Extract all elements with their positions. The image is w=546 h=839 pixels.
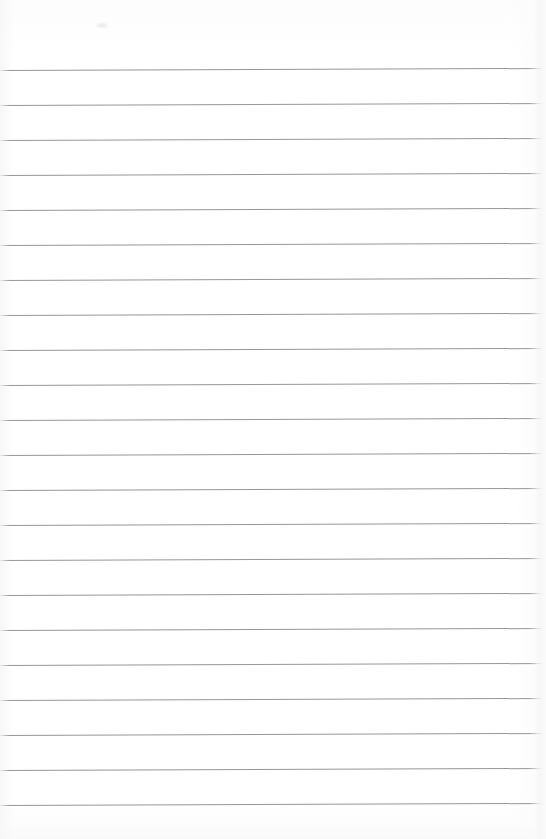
ruled-line <box>0 733 542 736</box>
paper-surface <box>0 0 546 839</box>
ruled-line <box>0 103 542 106</box>
page-edge-shadow-bottom <box>0 823 546 839</box>
ruled-line <box>0 138 542 141</box>
ruled-line <box>0 488 542 491</box>
ruled-line <box>0 663 542 666</box>
ruled-lines-layer <box>0 0 546 839</box>
ruled-line <box>0 558 542 561</box>
ruled-line <box>0 313 542 316</box>
ruled-line <box>0 418 542 421</box>
ruled-line <box>0 68 542 71</box>
ruled-line <box>0 208 542 211</box>
ruled-line <box>0 348 542 351</box>
ruled-line <box>0 173 542 176</box>
ruled-line <box>0 768 542 771</box>
ruled-line <box>0 523 542 526</box>
ruled-line <box>0 383 542 386</box>
ruled-line <box>0 593 542 596</box>
ruled-line <box>0 243 542 246</box>
faint-smudge-artifact <box>95 22 109 29</box>
ruled-line <box>0 453 542 456</box>
ruled-line <box>0 698 542 701</box>
page-edge-shadow-right <box>534 0 546 839</box>
ruled-line <box>0 803 542 806</box>
scanned-page <box>0 0 546 839</box>
ruled-line <box>0 278 542 281</box>
ruled-line <box>0 628 542 631</box>
